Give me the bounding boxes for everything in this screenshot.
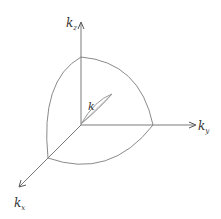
k-vector-line [81,94,112,124]
k-space-octant-diagram: kz ky kx k [0,0,221,219]
x-axis [20,125,81,186]
z-axis-label: kz [66,16,77,32]
k-vector-label: k [88,100,95,113]
y-axis-label: ky [198,119,210,135]
sphere-arc-xy [48,125,153,164]
x-axis-label: kx [14,196,25,212]
